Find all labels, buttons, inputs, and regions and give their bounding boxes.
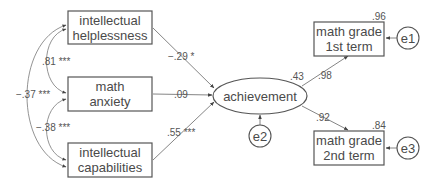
sem-diagram: .81 *** −.38 *** −.37 *** intellectual h… (0, 0, 438, 188)
node-math-grade-1st-term: math grade 1st term (314, 22, 384, 56)
node-math-grade-2nd-term: math grade 2nd term (314, 131, 384, 165)
svg-text:math grade: math grade (316, 133, 382, 148)
cov-label-helplessness-capabilities: −.37 *** (16, 89, 50, 100)
cov-label-helplessness-anxiety: .81 *** (42, 56, 70, 67)
loading-grade2: .92 (316, 112, 330, 123)
svg-text:intellectual: intellectual (79, 145, 141, 160)
svg-text:math: math (96, 79, 125, 94)
svg-text:e3: e3 (401, 141, 415, 156)
error-e2: e2 (249, 125, 271, 147)
svg-text:achievement: achievement (223, 89, 297, 104)
r2-grade1: .96 (372, 11, 386, 22)
svg-text:e1: e1 (401, 31, 415, 46)
svg-text:helplessness: helplessness (72, 28, 148, 43)
svg-text:capabilities: capabilities (78, 160, 143, 175)
node-math-anxiety: math anxiety (68, 77, 152, 111)
error-e1: e1 (397, 27, 419, 49)
node-intellectual-capabilities: intellectual capabilities (68, 143, 152, 177)
svg-text:e2: e2 (253, 129, 267, 144)
error-e3: e3 (397, 137, 419, 159)
node-achievement: achievement (213, 78, 307, 114)
svg-text:math grade: math grade (316, 24, 382, 39)
node-intellectual-helplessness: intellectual helplessness (68, 11, 152, 44)
svg-text:2nd term: 2nd term (323, 148, 374, 163)
coef-anxiety: .09 (174, 89, 188, 100)
r2-grade2: .84 (372, 120, 386, 131)
loading-grade1: .98 (318, 70, 332, 81)
r2-achievement: .43 (290, 71, 304, 82)
cov-label-anxiety-capabilities: −.38 *** (36, 122, 70, 133)
svg-text:anxiety: anxiety (89, 94, 131, 109)
coef-capabilities: .55 *** (167, 127, 195, 138)
svg-text:1st term: 1st term (326, 39, 373, 54)
svg-text:intellectual: intellectual (79, 13, 141, 28)
coef-helplessness: −.29 * (168, 51, 195, 62)
